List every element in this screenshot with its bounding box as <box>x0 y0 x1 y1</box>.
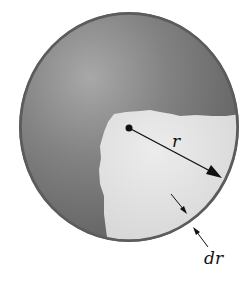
sphere-diagram: r dr <box>0 0 252 284</box>
radius-label: r <box>172 131 181 151</box>
thickness-label: dr <box>204 248 224 268</box>
